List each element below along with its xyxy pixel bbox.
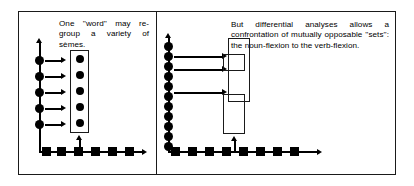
left-mapping-arrow-shaft <box>45 60 61 62</box>
left-chain-dot <box>35 72 44 81</box>
left-mapping-arrowhead <box>61 57 66 63</box>
left-mapping-arrow-shaft <box>45 124 61 126</box>
right-chain-dot <box>164 52 173 61</box>
left-base-square <box>91 147 100 156</box>
left-mapping-arrowhead <box>61 121 66 127</box>
left-chain-dot <box>35 120 44 129</box>
right-base-square <box>188 147 197 156</box>
right-base-square <box>273 147 282 156</box>
right-base-square <box>171 147 180 156</box>
right-chain-dot <box>164 112 173 121</box>
left-mapping-arrow-shaft <box>45 108 61 110</box>
right-base-square <box>205 147 214 156</box>
right-set-box-inner <box>223 54 245 71</box>
right-base-square <box>290 147 299 156</box>
right-chain-dot <box>164 122 173 131</box>
left-mapping-arrow-shaft <box>45 92 61 94</box>
left-mapping-arrowhead <box>61 105 66 111</box>
left-base-square <box>57 147 66 156</box>
right-chain-dot <box>164 132 173 141</box>
left-base-square <box>125 147 134 156</box>
panel-right-caption: But differential analyses allows a confr… <box>231 20 389 51</box>
right-chain-dot <box>164 82 173 91</box>
right-base-square <box>222 147 231 156</box>
left-base-square <box>74 147 83 156</box>
left-up-arrowhead <box>76 135 82 140</box>
right-mapping-arrow-shaft <box>174 56 222 58</box>
right-axis-right-arrowhead <box>317 149 322 155</box>
left-seme-circle <box>76 119 84 127</box>
right-up-arrowhead <box>231 136 237 141</box>
right-mapping-arrow-shaft <box>174 69 222 71</box>
figure-container: One ''word'' may re-group a variety of s… <box>18 11 396 175</box>
left-chain-dot <box>35 88 44 97</box>
panel-left: One ''word'' may re-group a variety of s… <box>19 12 157 174</box>
panel-left-caption: One ''word'' may re-group a variety of s… <box>59 19 149 50</box>
left-mapping-arrowhead <box>61 89 66 95</box>
right-mapping-arrow-shaft <box>174 92 222 94</box>
left-chain-dot <box>35 56 44 65</box>
right-set-box-lower <box>223 94 245 134</box>
panel-right: But differential analyses allows a confr… <box>157 12 397 174</box>
left-mapping-arrow-shaft <box>45 76 61 78</box>
left-seme-circle <box>76 87 84 95</box>
left-seme-circle <box>76 71 84 79</box>
left-seme-circle <box>76 55 84 63</box>
right-chain-dot <box>164 102 173 111</box>
right-chain-dot <box>164 92 173 101</box>
left-axis-right-arrowhead <box>142 149 147 155</box>
right-up-arrow-shaft <box>234 141 236 153</box>
right-chain-dot <box>164 62 173 71</box>
left-mapping-arrowhead <box>61 73 66 79</box>
right-base-square <box>256 147 265 156</box>
right-chain-dot <box>164 42 173 51</box>
right-chain-dot <box>164 72 173 81</box>
left-seme-circle <box>76 103 84 111</box>
left-base-square <box>108 147 117 156</box>
left-base-square <box>42 147 51 156</box>
left-chain-dot <box>35 104 44 113</box>
right-base-square <box>239 147 248 156</box>
